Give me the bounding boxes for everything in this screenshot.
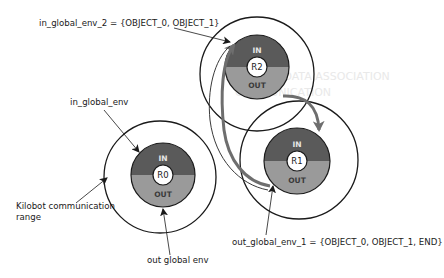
r1-out-label: OUT — [288, 176, 306, 185]
r2-id-label: R2 — [251, 62, 262, 72]
robot-r0: IN R0 OUT — [131, 143, 195, 207]
r1-in-label: IN — [292, 140, 301, 149]
r0-out-label: OUT — [154, 190, 172, 199]
r0-id-label: R0 — [157, 170, 168, 180]
robot-r1: IN R1 OUT — [264, 128, 330, 194]
kilobot-communication-diagram: SEPARATE DATA ASSOCIATION COMMUNICATION … — [0, 0, 444, 278]
r2-out-label: OUT — [248, 81, 266, 90]
label-comm-range-line2: range — [16, 212, 41, 222]
label-comm-range-line1: Kilobot communication — [16, 201, 115, 211]
r0-in-label: IN — [158, 154, 167, 163]
pointer-in-global-env — [104, 110, 139, 152]
pointer-out-global-env-1 — [266, 186, 273, 235]
r1-id-label: R1 — [291, 156, 302, 166]
pointer-comm-range — [76, 178, 107, 203]
label-in-global-env-2: in_global_env_2 = {OBJECT_0, OBJECT_1} — [39, 18, 220, 28]
label-out-global-env: out global env — [147, 255, 209, 265]
robot-r2: IN R2 OUT — [225, 35, 289, 99]
label-in-global-env: in_global_env — [70, 97, 128, 107]
r2-in-label: IN — [252, 46, 261, 55]
label-out-global-env-1: out_global_env_1 = {OBJECT_0, OBJECT_1, … — [232, 237, 443, 247]
